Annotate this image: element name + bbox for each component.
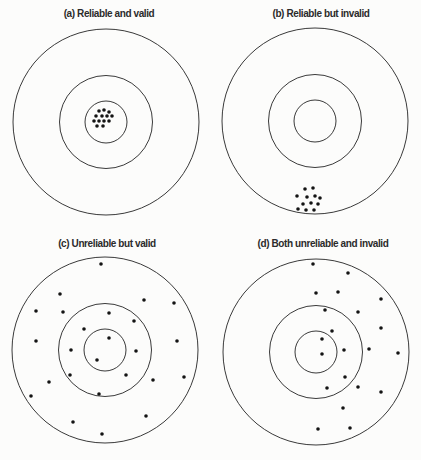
panel-d: (d) Both unreliable and invalid bbox=[223, 238, 409, 445]
data-point bbox=[343, 375, 347, 379]
data-point bbox=[134, 349, 138, 353]
data-point bbox=[99, 262, 103, 266]
data-point bbox=[47, 380, 51, 384]
data-point bbox=[105, 114, 109, 118]
data-point bbox=[101, 124, 105, 128]
dot-group bbox=[92, 108, 114, 128]
target-circle-middle bbox=[270, 306, 363, 399]
target-circle-inner bbox=[294, 100, 336, 142]
target-circle-outer bbox=[222, 28, 408, 214]
data-point bbox=[323, 308, 327, 312]
data-point bbox=[82, 327, 86, 331]
data-point bbox=[102, 108, 106, 112]
data-point bbox=[341, 406, 345, 410]
data-point bbox=[314, 291, 318, 295]
data-point bbox=[325, 386, 329, 390]
panel-title: (c) Unreliable but valid bbox=[58, 238, 156, 249]
target-circle-middle bbox=[269, 75, 362, 168]
panel-b: (b) Reliable but invalid bbox=[222, 8, 408, 214]
data-point bbox=[107, 110, 111, 114]
data-point bbox=[295, 194, 299, 198]
data-point bbox=[34, 309, 38, 313]
data-point bbox=[107, 119, 111, 123]
data-point bbox=[68, 373, 72, 377]
data-point bbox=[142, 298, 146, 302]
reliability-validity-figure: (a) Reliable and valid (b) Reliable but … bbox=[0, 0, 421, 460]
data-point bbox=[144, 414, 148, 418]
dot-group bbox=[311, 262, 400, 431]
data-point bbox=[296, 207, 300, 211]
panel-c: (c) Unreliable but valid bbox=[12, 238, 198, 443]
data-point bbox=[304, 208, 308, 212]
data-point bbox=[305, 195, 309, 199]
data-point bbox=[367, 347, 371, 351]
data-point bbox=[320, 337, 324, 341]
data-point bbox=[29, 394, 33, 398]
data-point bbox=[182, 375, 186, 379]
data-point bbox=[356, 385, 360, 389]
data-point bbox=[107, 311, 111, 315]
data-point bbox=[100, 432, 104, 436]
data-point bbox=[309, 201, 313, 205]
data-point bbox=[379, 326, 383, 330]
data-point bbox=[71, 420, 75, 424]
data-point bbox=[346, 271, 350, 275]
data-point bbox=[379, 390, 383, 394]
data-point bbox=[94, 114, 98, 118]
target-circle-outer bbox=[13, 29, 199, 215]
data-point bbox=[303, 187, 307, 191]
data-point bbox=[379, 297, 383, 301]
data-point bbox=[151, 378, 155, 382]
data-point bbox=[69, 348, 73, 352]
data-point bbox=[396, 351, 400, 355]
data-point bbox=[95, 124, 99, 128]
target-circle-inner bbox=[85, 101, 127, 143]
data-point bbox=[330, 329, 334, 333]
data-point bbox=[316, 427, 320, 431]
target-circle-outer bbox=[12, 257, 198, 443]
targets-svg: (a) Reliable and valid (b) Reliable but … bbox=[0, 0, 421, 460]
data-point bbox=[61, 310, 65, 314]
data-point bbox=[95, 358, 99, 362]
data-point bbox=[311, 262, 315, 266]
data-point bbox=[110, 114, 114, 118]
target-circle-outer bbox=[223, 259, 409, 445]
data-point bbox=[97, 119, 101, 123]
data-point bbox=[102, 119, 106, 123]
target-circle-inner bbox=[295, 331, 337, 373]
dot-group bbox=[29, 262, 186, 436]
data-point bbox=[316, 202, 320, 206]
data-point bbox=[124, 373, 128, 377]
data-point bbox=[58, 292, 62, 296]
data-point bbox=[348, 426, 352, 430]
panel-a: (a) Reliable and valid bbox=[13, 8, 199, 215]
data-point bbox=[320, 352, 324, 356]
data-point bbox=[97, 392, 101, 396]
data-point bbox=[301, 202, 305, 206]
data-point bbox=[97, 109, 101, 113]
data-point bbox=[318, 196, 322, 200]
data-point bbox=[132, 319, 136, 323]
data-point bbox=[92, 119, 96, 123]
dot-group bbox=[295, 186, 322, 212]
target-circle-middle bbox=[60, 76, 153, 169]
data-point bbox=[312, 208, 316, 212]
data-point bbox=[107, 336, 111, 340]
data-point bbox=[100, 114, 104, 118]
panel-title: (d) Both unreliable and invalid bbox=[258, 238, 389, 249]
data-point bbox=[172, 301, 176, 305]
data-point bbox=[342, 348, 346, 352]
data-point bbox=[175, 339, 179, 343]
panel-title: (b) Reliable but invalid bbox=[272, 8, 369, 19]
target-circle-inner bbox=[84, 329, 126, 371]
data-point bbox=[356, 310, 360, 314]
data-point bbox=[336, 290, 340, 294]
data-point bbox=[311, 186, 315, 190]
data-point bbox=[313, 194, 317, 198]
data-point bbox=[34, 339, 38, 343]
panel-title: (a) Reliable and valid bbox=[64, 8, 155, 19]
